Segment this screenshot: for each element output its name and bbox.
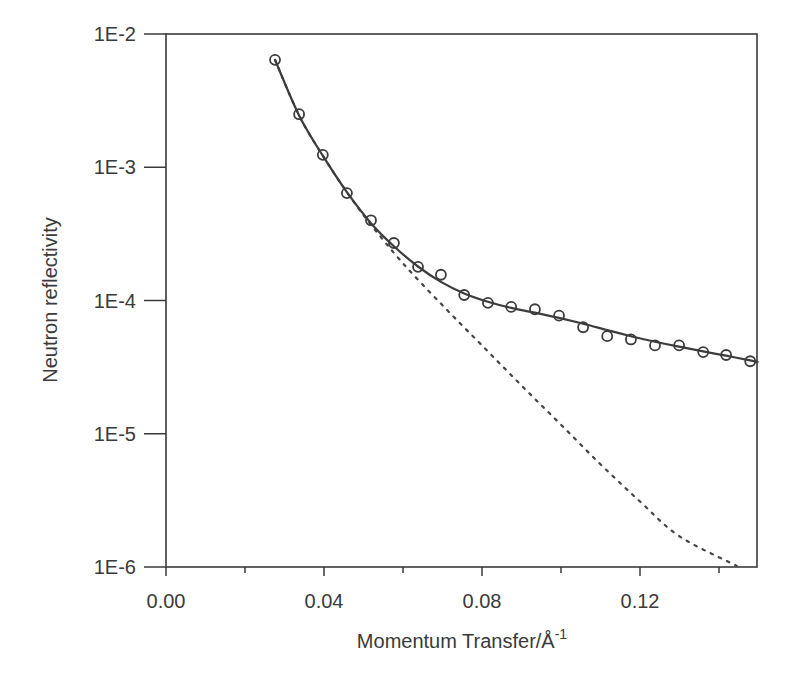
x-tick-label: 0.04 [305, 590, 344, 612]
x-tick-label: 0.00 [147, 590, 186, 612]
y-axis-title: Neutron reflectivity [39, 217, 61, 383]
x-tick-label: 0.12 [621, 590, 660, 612]
data-points [270, 55, 755, 366]
reflectivity-chart: 0.000.040.080.12 1E-21E-31E-41E-51E-6 Mo… [0, 0, 786, 680]
data-point-marker [554, 311, 564, 321]
y-tick-label: 1E-4 [94, 290, 136, 312]
y-tick-label: 1E-5 [94, 423, 136, 445]
data-point-marker [602, 331, 612, 341]
y-axis: 1E-21E-31E-41E-51E-6 [94, 23, 166, 578]
plot-area-border [166, 34, 757, 567]
x-axis: 0.000.040.080.12 [147, 567, 719, 612]
plot-frame [166, 34, 757, 567]
y-tick-label: 1E-6 [94, 556, 136, 578]
y-tick-label: 1E-3 [94, 156, 136, 178]
data-point-marker [436, 270, 446, 280]
x-tick-label: 0.08 [463, 590, 502, 612]
fit-solid-curve [275, 60, 759, 362]
fresnel-dotted-curve [275, 60, 737, 566]
x-axis-title: Momentum Transfer/Å-1 [357, 626, 568, 652]
y-tick-label: 1E-2 [94, 23, 136, 45]
series-layer [270, 55, 758, 566]
